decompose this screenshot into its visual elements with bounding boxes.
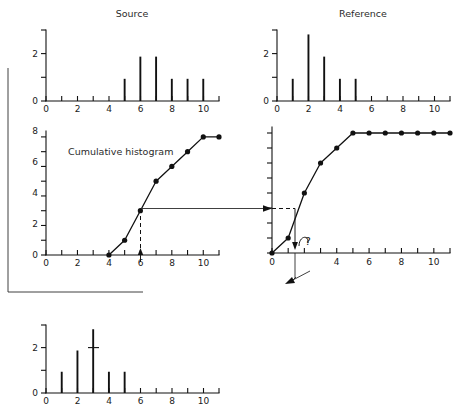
result-xtick-8: 8: [169, 396, 175, 406]
reference-xtick-6: 6: [369, 104, 375, 114]
result-y-ticks: [41, 325, 46, 393]
data-point: [415, 130, 420, 135]
cumref-xtick-10: 10: [428, 257, 440, 267]
cumulative-reference-points: [269, 130, 452, 255]
cumsrc-ytick-6: 6: [32, 157, 38, 167]
reference-xtick-2: 2: [306, 104, 312, 114]
cumulative-reference-y-ticks: [267, 133, 272, 253]
data-point: [153, 179, 158, 184]
result-xtick-10: 10: [198, 396, 210, 406]
cumref-xtick-4: 4: [334, 257, 340, 267]
reference-xtick-0: 0: [274, 104, 280, 114]
panel-result-histogram: 0 2 0 2 4 6 8 10: [32, 325, 219, 406]
source-ytick-0: 0: [32, 96, 38, 106]
source-x-ticks: [46, 96, 219, 101]
result-xtick-6: 6: [138, 396, 144, 406]
source-title: Source: [116, 8, 149, 19]
cumsrc-xtick-8: 8: [169, 258, 175, 268]
source-xtick-8: 8: [169, 104, 175, 114]
reference-xtick-8: 8: [400, 104, 406, 114]
result-xtick-4: 4: [106, 396, 112, 406]
data-point: [106, 252, 111, 257]
source-xtick-2: 2: [75, 104, 81, 114]
reference-bars: [293, 34, 356, 101]
reference-xtick-10: 10: [429, 104, 441, 114]
reference-xtick-4: 4: [337, 104, 343, 114]
result-bars: [62, 329, 125, 393]
cumsrc-xtick-10: 10: [198, 258, 210, 268]
data-point: [286, 235, 291, 240]
result-xtick-0: 0: [43, 396, 49, 406]
cumulative-source-title: Cumulative histogram: [68, 146, 173, 157]
flow-arrow-source-to-reference: [141, 205, 272, 211]
cumulative-reference-curve: [272, 133, 450, 253]
histogram-matching-figure: Source 0 2 0 2 4: [0, 0, 461, 419]
data-point: [185, 149, 190, 154]
reference-x-ticks: [277, 96, 450, 101]
question-mark-label: ?: [305, 235, 311, 248]
source-xtick-10: 10: [198, 104, 210, 114]
result-x-ticks: [46, 388, 219, 393]
result-xtick-2: 2: [75, 396, 81, 406]
source-ytick-2: 2: [32, 49, 38, 59]
cumulative-source-x-ticks: [46, 250, 219, 255]
data-point: [318, 160, 323, 165]
source-xtick-6: 6: [138, 104, 144, 114]
data-point: [216, 134, 221, 139]
cumsrc-xtick-0: 0: [43, 258, 49, 268]
data-point: [366, 130, 371, 135]
cumref-xtick-0: 0: [269, 257, 275, 267]
cumsrc-xtick-4: 4: [106, 258, 112, 268]
source-y-ticks: [41, 30, 46, 101]
cumsrc-ytick-2: 2: [32, 219, 38, 229]
cumsrc-ytick-8: 8: [32, 126, 38, 136]
cumulative-reference-x-ticks: [272, 248, 450, 253]
reference-ytick-0: 0: [263, 96, 269, 106]
flow-arrow-reference-to-result: [285, 253, 310, 284]
data-point: [269, 250, 274, 255]
panel-cumulative-source: Cumulative histogram 0 2 4 6 8 0 2 4 6 8…: [32, 126, 221, 268]
reference-y-ticks: [272, 30, 277, 101]
data-point: [122, 238, 127, 243]
cumref-xtick-6: 6: [366, 257, 372, 267]
source-bars: [125, 57, 204, 101]
data-point: [334, 145, 339, 150]
data-point: [350, 130, 355, 135]
cumulative-source-y-ticks: [41, 137, 46, 255]
data-point: [431, 130, 436, 135]
panel-reference-histogram: Reference 0 2 0 2 4 6 8 10: [263, 8, 450, 114]
reference-title: Reference: [339, 8, 387, 19]
source-xtick-0: 0: [43, 104, 49, 114]
data-point: [383, 130, 388, 135]
data-point: [302, 190, 307, 195]
reference-ytick-2: 2: [263, 49, 269, 59]
result-ytick-0: 0: [32, 388, 38, 398]
panel-source-histogram: Source 0 2 0 2 4: [32, 8, 219, 114]
data-point: [399, 130, 404, 135]
data-point: [201, 134, 206, 139]
cumsrc-xtick-2: 2: [75, 258, 81, 268]
data-point: [169, 164, 174, 169]
result-ytick-2: 2: [32, 343, 38, 353]
cumsrc-ytick-4: 4: [32, 188, 38, 198]
data-point: [447, 130, 452, 135]
cumsrc-ytick-0: 0: [32, 250, 38, 260]
source-xtick-4: 4: [106, 104, 112, 114]
panel-cumulative-reference: 0 4 6 8 10 ?: [267, 127, 453, 267]
cumref-xtick-8: 8: [399, 257, 405, 267]
